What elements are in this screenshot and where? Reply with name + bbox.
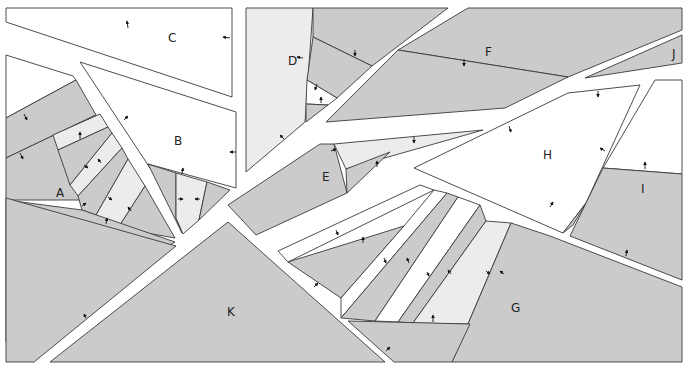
- label-i: I: [641, 182, 645, 196]
- label-f: F: [485, 45, 492, 59]
- label-k: K: [227, 305, 236, 319]
- quilt-pattern-diagram: A B C D E F G H I J K: [0, 0, 689, 373]
- label-e: E: [322, 170, 330, 184]
- label-j: J: [671, 47, 676, 61]
- label-b: B: [174, 134, 182, 148]
- label-d: D: [288, 54, 297, 68]
- label-h: H: [543, 148, 552, 162]
- label-c: C: [168, 31, 176, 45]
- label-a: A: [56, 186, 65, 200]
- label-g: G: [511, 301, 520, 315]
